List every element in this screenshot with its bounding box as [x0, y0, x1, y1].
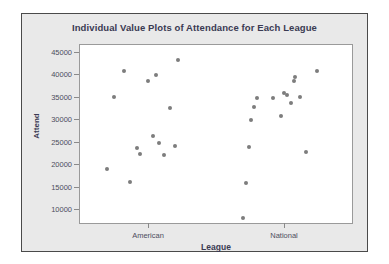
data-point: [304, 150, 308, 154]
y-tick-mark: [74, 97, 79, 98]
data-point: [244, 181, 248, 185]
data-point: [298, 95, 302, 99]
data-point: [293, 75, 297, 79]
y-tick-label: 30000: [51, 115, 72, 124]
y-tick-label: 20000: [51, 160, 72, 169]
data-point: [289, 101, 293, 105]
y-tick-mark: [74, 164, 79, 165]
data-point: [151, 134, 155, 138]
data-point: [255, 96, 259, 100]
data-point: [241, 216, 245, 220]
x-tick-label-american: American: [132, 231, 164, 240]
data-point: [154, 73, 158, 77]
y-tick-label: 45000: [51, 47, 72, 56]
data-point: [247, 145, 251, 149]
data-point: [146, 79, 150, 83]
data-point: [173, 144, 177, 148]
x-tick-mark: [284, 223, 285, 228]
data-point: [252, 105, 256, 109]
y-tick-label: 10000: [51, 205, 72, 214]
y-tick-mark: [74, 52, 79, 53]
x-axis-label: League: [79, 242, 353, 252]
data-point: [285, 93, 289, 97]
data-point: [105, 167, 109, 171]
data-point: [271, 96, 275, 100]
y-tick-label: 40000: [51, 70, 72, 79]
y-tick-label: 15000: [51, 182, 72, 191]
y-tick-label: 35000: [51, 92, 72, 101]
data-point: [138, 152, 142, 156]
data-point: [279, 114, 283, 118]
data-point: [135, 146, 139, 150]
data-point: [176, 58, 180, 62]
x-tick-label-national: National: [270, 231, 298, 240]
data-point: [292, 79, 296, 83]
data-point: [162, 153, 166, 157]
data-point: [315, 69, 319, 73]
data-point: [249, 118, 253, 122]
y-tick-label: 25000: [51, 137, 72, 146]
y-axis-label: Attend: [32, 113, 41, 138]
chart-title: Individual Value Plots of Attendance for…: [22, 22, 367, 33]
chart-figure: Individual Value Plots of Attendance for…: [21, 13, 368, 252]
plot-area: 1000015000200002500030000350004000045000…: [79, 44, 353, 224]
y-tick-mark: [74, 142, 79, 143]
x-tick-mark: [148, 223, 149, 228]
y-tick-mark: [74, 74, 79, 75]
data-point: [157, 141, 161, 145]
data-point: [128, 180, 132, 184]
y-tick-mark: [74, 119, 79, 120]
y-tick-mark: [74, 187, 79, 188]
data-point: [168, 106, 172, 110]
data-point: [122, 69, 126, 73]
data-point: [112, 95, 116, 99]
y-tick-mark: [74, 209, 79, 210]
